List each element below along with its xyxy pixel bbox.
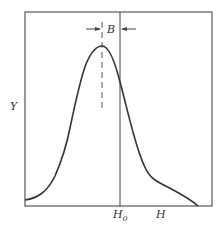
arrowhead-left-icon	[121, 27, 127, 31]
absorption-curve	[25, 46, 198, 206]
x-axis-label: H	[155, 208, 166, 221]
arrowhead-right-icon	[95, 27, 101, 31]
plot-frame	[25, 12, 212, 206]
diagram-canvas: B Y H0 H	[0, 0, 223, 229]
width-label: B	[106, 23, 115, 36]
h0-label: H0	[112, 208, 128, 223]
y-axis-label: Y	[10, 100, 19, 113]
